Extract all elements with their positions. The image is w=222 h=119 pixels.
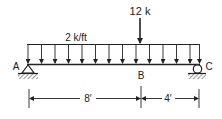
point-load-label: 12 k	[130, 5, 151, 17]
dimension-bc-label: 4′	[164, 93, 172, 104]
load-arrows	[28, 45, 200, 63]
support-c-label: C	[205, 61, 212, 72]
distributed-load-label: 2 k/ft	[65, 32, 87, 43]
ground-hatch-icon	[18, 74, 38, 79]
dimension-ab-label: 8′	[84, 93, 92, 104]
distributed-load: 2 k/ft	[27, 32, 200, 63]
ground-hatch-icon	[188, 74, 206, 79]
support-a-label: A	[13, 61, 20, 72]
point-b-label: B	[138, 70, 145, 81]
pin-support-a: A	[13, 61, 38, 79]
pin-support-icon	[22, 65, 34, 73]
roller-support-c: C	[188, 61, 213, 79]
dimensions: 8′ 4′	[29, 86, 199, 108]
roller-support-icon	[193, 65, 201, 73]
point-load: 12 k	[130, 5, 151, 43]
beam-diagram: 12 k 2 k/ft A	[0, 0, 222, 119]
